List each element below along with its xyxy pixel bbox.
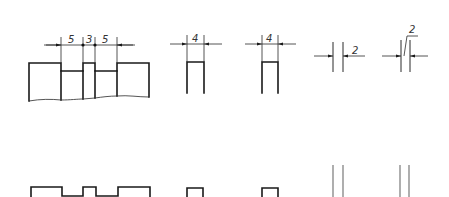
dim-label-5-left: 5 — [68, 34, 74, 45]
grooved-part: 5 3 5 — [29, 34, 149, 101]
slot-2: 4 — [245, 33, 296, 93]
slot-1-dim-label: 4 — [192, 33, 198, 44]
slot-2-dim-label: 4 — [266, 33, 272, 44]
slot-1: 4 — [170, 33, 222, 93]
dimension-dot — [93, 43, 96, 46]
slot-2-outline — [262, 62, 278, 93]
gap-2-dim-label: 2 — [409, 24, 415, 35]
bottom-gap-1 — [333, 165, 343, 197]
gap-2-leader-line — [404, 36, 418, 56]
dim-label-5-right: 5 — [102, 34, 108, 45]
bottom-gap-1-lines — [333, 165, 343, 197]
bottom-gap-2-lines — [400, 165, 409, 197]
bottom-slot-1-outline — [187, 188, 203, 197]
bottom-slot-1 — [187, 188, 203, 197]
grooved-part-inner-lines — [61, 71, 117, 100]
dim-label-3: 3 — [86, 34, 92, 45]
drawing-canvas: 5 3 5 4 4 2 2 — [0, 0, 449, 197]
bottom-slot-2 — [262, 188, 278, 197]
bottom-slot-2-outline — [262, 188, 278, 197]
bottom-gap-2 — [400, 165, 409, 197]
dimension-dot — [81, 43, 84, 46]
break-line — [29, 96, 149, 101]
grooved-part-outline — [29, 63, 149, 101]
gap-1-lines — [333, 42, 343, 72]
bottom-grooved-profile — [31, 187, 150, 197]
gap-1-dim-label: 2 — [352, 45, 358, 56]
gap-1: 2 — [314, 42, 365, 72]
slot-1-outline — [187, 62, 204, 93]
gap-2: 2 — [382, 24, 428, 72]
bottom-grooved-profile-outline — [31, 187, 150, 197]
